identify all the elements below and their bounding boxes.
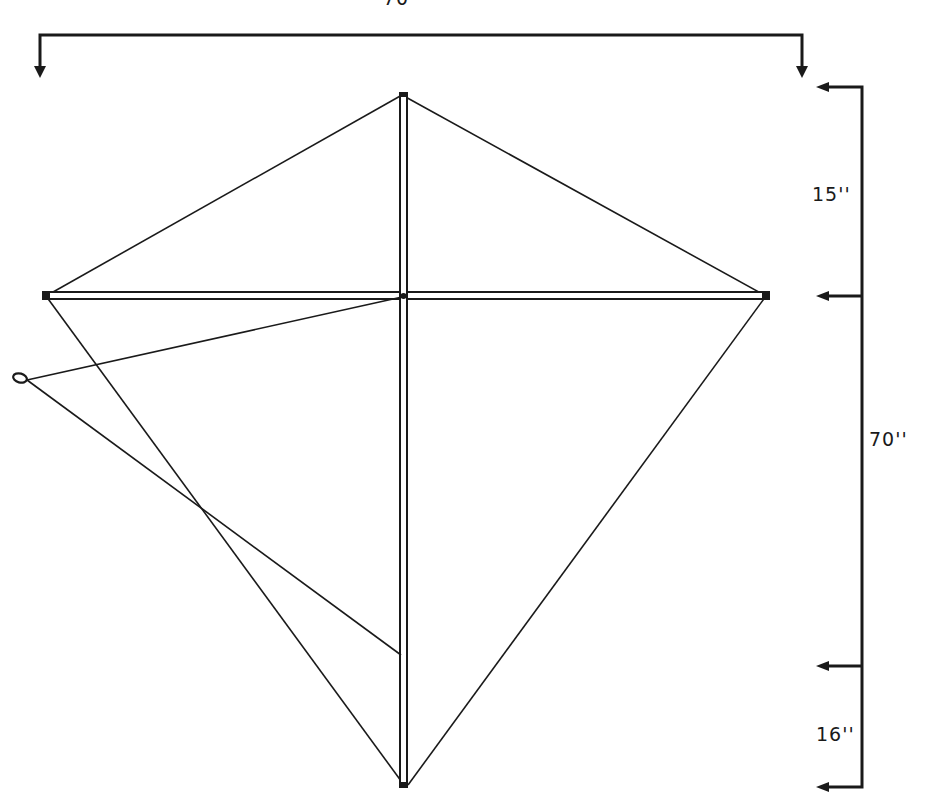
arrow-down-icon — [796, 66, 808, 78]
width-dimension-bracket — [34, 35, 808, 78]
arrow-left-icon — [816, 291, 829, 301]
spine — [399, 92, 408, 788]
arrow-left-icon — [816, 782, 829, 792]
arrow-left-icon — [816, 82, 829, 92]
arrow-left-icon — [816, 661, 829, 671]
kite-diagram — [0, 0, 925, 798]
arrow-down-icon — [34, 66, 46, 78]
bridle-loop — [12, 372, 28, 384]
upper-section-label: 15'' — [812, 183, 851, 205]
overall-height-label: 70'' — [869, 428, 908, 450]
bridle — [12, 297, 402, 655]
width-label: 70'' — [383, 0, 422, 9]
bridle-lower-section-label: 16'' — [816, 723, 855, 745]
